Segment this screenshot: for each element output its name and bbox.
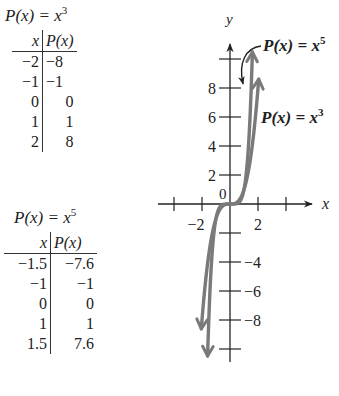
x-tick-label: −2 [187, 216, 204, 233]
label-x-fifth: P(x) = x5 [262, 34, 326, 55]
y-tick-label: 4 [208, 138, 216, 155]
x-tick-label: 2 [254, 216, 262, 233]
y-tick-label: −4 [244, 254, 261, 271]
origin-label: 0 [219, 186, 227, 202]
label-x-cubed-exponent: 3 [318, 106, 324, 118]
y-tick-label: 6 [208, 109, 216, 126]
y-tick-label: −8 [244, 312, 261, 329]
x-axis-label: x [321, 195, 329, 212]
y-tick-label: 8 [208, 80, 216, 97]
label-x-cubed-text: P(x) = x [260, 108, 318, 127]
label-x-fifth-exponent: 5 [320, 34, 326, 46]
label-x-fifth-text: P(x) = x [262, 36, 320, 55]
graph: xy0−228642−4−6−8P(x) = x5P(x) = x3 [0, 0, 339, 396]
y-tick-label: 2 [208, 167, 216, 184]
label-x-cubed: P(x) = x3 [260, 106, 324, 127]
y-tick-label: −6 [244, 283, 261, 300]
y-axis-label: y [224, 11, 233, 27]
labels: xy0−228642−4−6−8P(x) = x5P(x) = x3 [187, 11, 329, 329]
